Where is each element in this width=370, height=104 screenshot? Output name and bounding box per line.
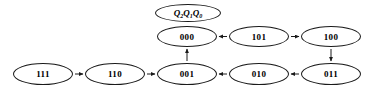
node-label: 011: [324, 69, 338, 79]
node-label: 000: [180, 32, 194, 42]
node-state-011[interactable]: 011: [301, 63, 361, 85]
node-state-111[interactable]: 111: [13, 63, 73, 85]
node-state-110[interactable]: 110: [85, 63, 145, 85]
node-state-100[interactable]: 100: [301, 26, 361, 47]
node-label: 101: [252, 32, 266, 42]
node-legend-q2q1q0: Q2Q1Q0: [155, 4, 221, 22]
node-state-010[interactable]: 010: [229, 63, 289, 85]
node-label: 100: [324, 32, 338, 42]
node-label: 111: [36, 69, 49, 79]
node-label: 010: [252, 69, 266, 79]
node-state-101[interactable]: 101: [229, 26, 289, 47]
state-diagram-canvas: Q2Q1Q0 000 101 100 111 110 001 010 011: [0, 0, 370, 104]
node-label: 110: [108, 69, 122, 79]
node-state-000[interactable]: 000: [157, 26, 217, 47]
node-state-001[interactable]: 001: [157, 63, 217, 85]
legend-text: Q2Q1Q0: [174, 8, 203, 18]
node-label: 001: [180, 69, 194, 79]
